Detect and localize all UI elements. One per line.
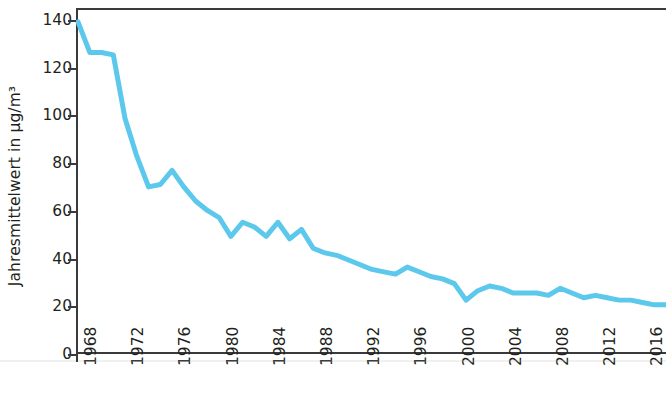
y-tick-label: 120 [34, 59, 72, 77]
y-tick-mark [68, 68, 76, 70]
chart-figure: Jahresmittelwert in µg/m³ 02040608010012… [0, 0, 666, 415]
y-tick-mark [68, 306, 76, 308]
y-tick-mark [68, 354, 76, 356]
y-axis-tick-labels: 020406080100120140 [26, 0, 72, 415]
y-tick-label: 20 [34, 297, 72, 315]
line-series-svg [78, 10, 666, 352]
y-tick-label: 40 [34, 250, 72, 268]
y-tick-mark [68, 115, 76, 117]
y-tick-label: 100 [34, 106, 72, 124]
y-tick-label: 80 [34, 154, 72, 172]
y-tick-mark [68, 20, 76, 22]
y-axis-title: Jahresmittelwert in µg/m³ [2, 6, 28, 366]
y-tick-mark [68, 211, 76, 213]
line-series-jahresmittelwert [78, 22, 666, 305]
x-tick-mark [76, 354, 78, 362]
plot-area [76, 8, 666, 354]
y-tick-mark [68, 259, 76, 261]
y-tick-mark [68, 163, 76, 165]
y-tick-label: 60 [34, 202, 72, 220]
y-tick-label: 140 [34, 11, 72, 29]
scan-artifact-line [0, 360, 666, 362]
